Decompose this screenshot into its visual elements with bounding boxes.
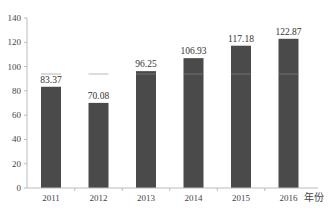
y-tick-label: 140 bbox=[8, 13, 22, 23]
bar-value-label: 117.18 bbox=[228, 34, 254, 44]
y-tick-label: 100 bbox=[8, 62, 22, 72]
y-tick-label: 80 bbox=[12, 86, 22, 96]
bar-value-label: 83.37 bbox=[40, 75, 62, 85]
bar-value-label: 96.25 bbox=[135, 59, 157, 69]
x-axis-title: 年份 bbox=[304, 191, 324, 203]
bar-2012 bbox=[89, 103, 109, 188]
bar-2013 bbox=[136, 71, 156, 188]
bar-value-label: 106.93 bbox=[180, 46, 206, 56]
x-axis: 201120122013201420152016 bbox=[27, 188, 318, 203]
y-tick-label: 40 bbox=[12, 134, 22, 144]
y-axis: 020406080100120140 bbox=[8, 13, 28, 193]
y-tick-label: 120 bbox=[8, 37, 22, 47]
y-tick-label: 60 bbox=[12, 110, 22, 120]
bar-2011 bbox=[41, 87, 61, 188]
x-tick-label: 2015 bbox=[232, 193, 251, 203]
x-tick-label: 2011 bbox=[42, 193, 60, 203]
bar-chart: 020406080100120140 83.3770.0896.25106.93… bbox=[0, 0, 328, 212]
x-tick-label: 2012 bbox=[90, 193, 108, 203]
bar-value-label: 70.08 bbox=[88, 91, 110, 101]
bar-2016 bbox=[279, 39, 299, 188]
x-tick-label: 2014 bbox=[185, 193, 204, 203]
y-tick-label: 0 bbox=[17, 183, 22, 193]
y-tick-label: 20 bbox=[12, 159, 22, 169]
bar-value-label: 122.87 bbox=[275, 27, 301, 37]
bars: 83.3770.0896.25106.93117.18122.87 bbox=[40, 27, 302, 188]
x-tick-label: 2013 bbox=[137, 193, 156, 203]
bar-2015 bbox=[231, 46, 251, 188]
bar-2014 bbox=[184, 58, 204, 188]
x-tick-label: 2016 bbox=[280, 193, 299, 203]
